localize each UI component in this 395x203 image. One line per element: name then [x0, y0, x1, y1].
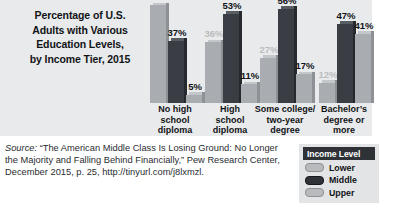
chart-title-line-2: Adults with Various	[12, 23, 148, 38]
bar-middle	[278, 9, 294, 103]
bar-middle	[337, 24, 353, 103]
legend-label-middle: Middle	[329, 175, 357, 185]
chart-title-line-1: Percentage of U.S.	[12, 8, 148, 23]
bar-face	[205, 42, 221, 103]
chart-panel: Percentage of U.S. Adults with Various E…	[0, 0, 372, 136]
legend-item-lower: Lower	[303, 163, 375, 173]
bar-side-face	[184, 38, 187, 103]
source-note: Source: “The American Middle Class Is Lo…	[5, 142, 291, 179]
legend-item-upper: Upper	[303, 188, 375, 198]
category-axis: No highschooldiplomaHighschooldiplomaSom…	[146, 104, 372, 136]
bar-face	[296, 74, 312, 103]
bar-lower	[260, 58, 276, 103]
bar-upper	[355, 34, 371, 103]
bar-lower	[205, 42, 221, 103]
category-label: Bachelor’sdegree ormore	[307, 104, 381, 136]
bar-middle	[223, 14, 239, 103]
bar-upper	[241, 84, 257, 103]
legend-swatch-upper-icon	[305, 188, 324, 197]
chart-title: Percentage of U.S. Adults with Various E…	[12, 8, 148, 66]
bar-lower	[319, 83, 335, 103]
source-prefix: Source:	[5, 143, 37, 153]
bar-middle	[168, 41, 184, 103]
legend: Income Level Lower Middle Upper	[299, 144, 379, 203]
bar-side-face	[371, 31, 374, 103]
bar-face	[319, 83, 335, 103]
source-url: http://tinyurl.com/j8lxmzl.	[102, 167, 204, 177]
legend-swatch-middle-icon	[305, 176, 324, 185]
legend-item-middle: Middle	[303, 175, 375, 185]
plot-area: 58%37%5%36%53%11%27%56%17%12%47%41%	[146, 2, 372, 103]
bar-value-label: 37%	[160, 27, 194, 38]
category-label-line: more	[307, 125, 381, 136]
category-label-line: Bachelor’s	[307, 104, 381, 115]
chart-figure: Percentage of U.S. Adults with Various E…	[0, 0, 395, 203]
chart-title-line-4: by Income Tier, 2015	[12, 52, 148, 67]
bar-value-label: 53%	[215, 0, 249, 11]
legend-label-lower: Lower	[329, 163, 355, 173]
bar-face	[223, 14, 239, 103]
bar-upper	[296, 74, 312, 103]
bar-value-label: 41%	[347, 20, 381, 31]
bar-face	[241, 84, 257, 103]
bar-upper	[186, 95, 202, 103]
bar-lower	[150, 5, 166, 103]
chart-title-line-3: Education Levels,	[12, 37, 148, 52]
bar-face	[337, 24, 353, 103]
bar-face	[355, 34, 371, 103]
bar-value-label: 56%	[270, 0, 304, 6]
legend-swatch-lower-icon	[305, 163, 324, 172]
bar-face	[150, 5, 166, 103]
legend-label-upper: Upper	[329, 188, 354, 198]
source-line-1: “The American Middle Class Is Losing Gro…	[37, 143, 246, 153]
bar-face	[186, 95, 202, 103]
bar-value-label: 58%	[142, 0, 176, 2]
legend-heading: Income Level	[303, 147, 375, 160]
bar-face	[278, 9, 294, 103]
bar-face	[168, 41, 184, 103]
category-label-line: degree or	[307, 115, 381, 126]
bar-face	[260, 58, 276, 103]
